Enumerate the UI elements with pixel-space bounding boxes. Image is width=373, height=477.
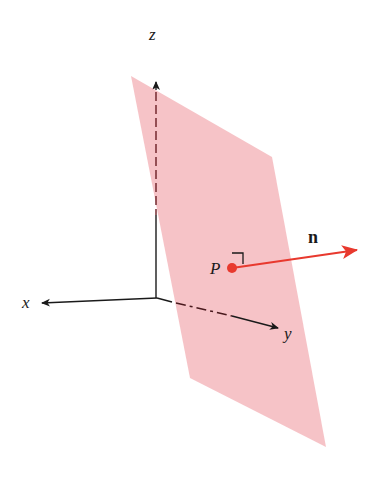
z-axis-label: z — [148, 25, 156, 44]
x-axis — [42, 298, 157, 303]
point-label: P — [209, 259, 220, 278]
diagram-canvas: z x y P n — [0, 0, 373, 477]
x-axis-label: x — [21, 293, 30, 312]
point-p — [227, 263, 237, 273]
normal-vector-label: n — [308, 227, 318, 247]
y-axis-label: y — [282, 324, 292, 343]
plane — [131, 76, 326, 447]
